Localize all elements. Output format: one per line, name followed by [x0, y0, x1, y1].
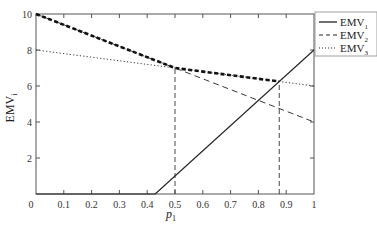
y-tick-label: 10 [22, 9, 32, 20]
chart-canvas: 00.10.20.30.40.50.60.70.80.91246810 EMVi… [0, 0, 377, 235]
envelope-line [36, 14, 279, 82]
x-tick-label: 0.6 [197, 199, 210, 210]
x-tick-label: 0.3 [113, 199, 126, 210]
upper-envelope [36, 14, 279, 82]
x-tick-label: 1 [312, 199, 317, 210]
y-tick-label: 4 [27, 117, 32, 128]
y-tick-label: 6 [27, 81, 32, 92]
y-axis-label: EMVi [3, 93, 19, 123]
x-tick-label: 0.8 [252, 199, 265, 210]
axis-tick-labels: 00.10.20.30.40.50.60.70.80.91246810 [22, 9, 317, 211]
y-tick-label: 8 [27, 45, 32, 56]
series-emv1 [155, 50, 314, 194]
x-tick-label: 0 [29, 199, 34, 210]
x-tick-label: 0.1 [58, 199, 71, 210]
x-tick-label: 0.7 [224, 199, 237, 210]
x-tick-label: 0.4 [141, 199, 154, 210]
legend: EMV1 EMV2 EMV3 [315, 12, 377, 57]
reference-lines [175, 68, 279, 194]
y-tick-label: 2 [27, 153, 32, 164]
x-tick-label: 0.9 [280, 199, 293, 210]
x-tick-label: 0.2 [85, 199, 98, 210]
